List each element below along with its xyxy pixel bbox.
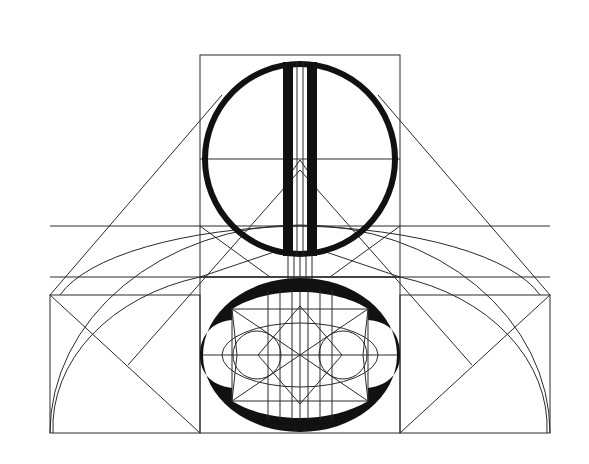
center-chevron — [293, 160, 307, 170]
geometric-construction-diagram — [0, 0, 589, 464]
left-outer-tangent — [50, 95, 222, 295]
diagram-svg — [0, 0, 589, 464]
right-vertical-bar — [307, 62, 317, 256]
lower-ellipse-group — [200, 278, 400, 432]
left-cross-diagonal — [200, 226, 270, 277]
left-vertical-bar — [283, 62, 293, 256]
left-square-diagonal-a — [50, 295, 200, 433]
upper-square — [200, 55, 400, 277]
right-cross-diagonal — [330, 226, 400, 277]
right-outer-tangent — [378, 95, 550, 295]
left-inner-arc — [53, 277, 200, 433]
right-square-diagonal-a — [400, 295, 550, 433]
right-short-diagonal — [320, 250, 400, 277]
left-short-diagonal — [200, 250, 280, 277]
right-inner-arc — [400, 277, 547, 433]
